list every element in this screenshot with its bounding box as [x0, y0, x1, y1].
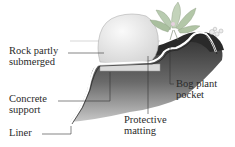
label-concrete-support: Concrete support [9, 93, 47, 115]
label-protective-matting: Protective matting [124, 114, 167, 136]
label-liner: Liner [9, 127, 32, 138]
rock [98, 14, 158, 64]
label-bog-plant-pocket: Bog plant pocket [176, 78, 217, 100]
pond-cross-section-illustration [0, 0, 235, 147]
label-rock-partly-submerged: Rock partly submerged [9, 45, 58, 67]
liner-leader [42, 126, 71, 134]
pond-diagram: Rock partly submerged Concrete support L… [0, 0, 235, 147]
